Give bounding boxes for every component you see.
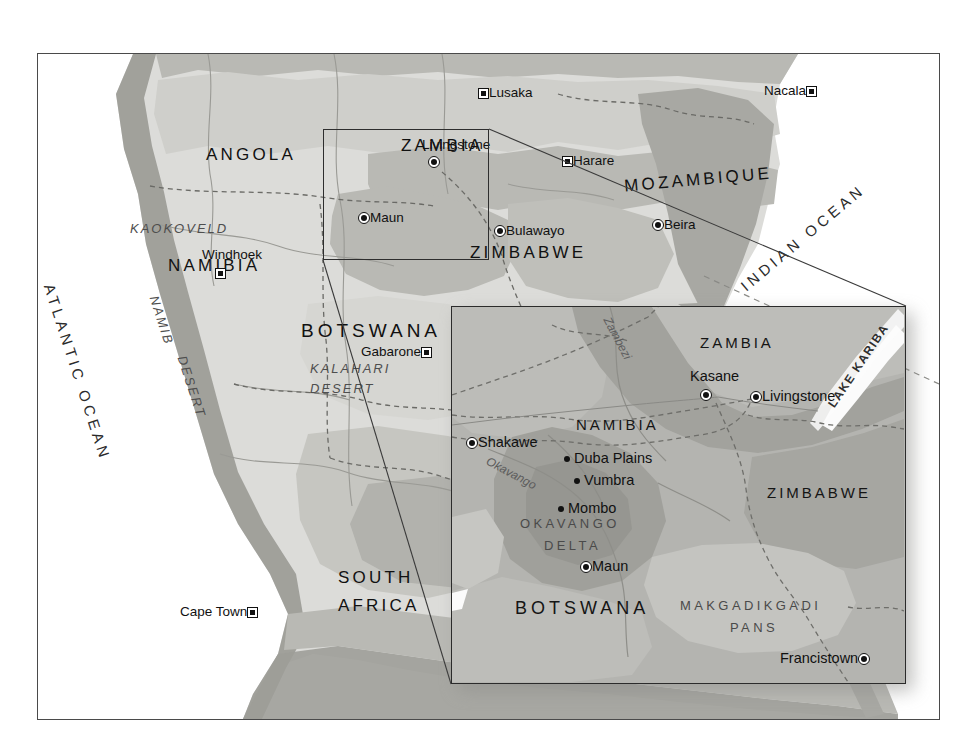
region-label-kalahari-desert: DESERT xyxy=(310,382,375,395)
city-cape-town: Cape Town xyxy=(180,605,258,619)
inset-camp-duba-plains: Duba Plains xyxy=(564,451,652,466)
inset-country-zambia: ZAMBIA xyxy=(700,335,774,350)
region-label-kaokoveld: KAOKOVELD xyxy=(130,222,228,235)
camp-marker-icon xyxy=(574,478,580,484)
camp-marker-icon xyxy=(558,506,564,512)
city-label: Lusaka xyxy=(489,85,533,100)
city-gabarone: Gabarone xyxy=(361,345,432,359)
inset-city-shakawe: Shakawe xyxy=(466,435,538,450)
city-label: Shakawe xyxy=(478,434,538,450)
capital-marker-icon xyxy=(247,607,258,618)
city-label: Maun xyxy=(592,558,628,574)
inset-country-botswana: BOTSWANA xyxy=(515,599,649,617)
inset-camp-vumbra: Vumbra xyxy=(574,473,634,488)
city-marker-icon xyxy=(494,225,506,237)
capital-marker-icon xyxy=(806,86,817,97)
inset-region-pans: PANS xyxy=(730,621,778,634)
inset-detail-box[interactable] xyxy=(323,129,489,260)
capital-marker-icon xyxy=(562,156,573,167)
city-label: Nacala xyxy=(764,83,806,98)
city-label: Beira xyxy=(664,217,696,232)
inset-map-okavango[interactable]: ZAMBIA NAMIBIA ZIMBABWE BOTSWANA OKAVANG… xyxy=(451,306,906,684)
city-marker-kasane-icon xyxy=(700,389,712,401)
map-canvas: ANGOLA ZAMBIA MOZAMBIQUE NAMIBIA ZIMBABW… xyxy=(0,0,973,754)
inset-region-okavango: OKAVANGO xyxy=(520,517,620,530)
city-lusaka: Lusaka xyxy=(478,86,533,100)
country-label-botswana: BOTSWANA xyxy=(301,321,441,340)
city-label: Francistown xyxy=(780,650,858,666)
camp-label: Duba Plains xyxy=(574,450,652,466)
city-bulawayo: Bulawayo xyxy=(494,224,565,238)
city-label: Cape Town xyxy=(180,604,247,619)
city-label: Gabarone xyxy=(361,344,421,359)
camp-marker-icon xyxy=(564,456,570,462)
country-label-south: SOUTH xyxy=(338,569,414,586)
inset-region-delta: DELTA xyxy=(544,539,601,552)
camp-label: Mombo xyxy=(568,500,616,516)
inset-country-namibia: NAMIBIA xyxy=(576,417,659,432)
capital-marker-icon xyxy=(421,347,432,358)
camp-label: Vumbra xyxy=(584,472,634,488)
inset-city-kasane: Kasane xyxy=(690,369,739,384)
city-marker-icon xyxy=(750,391,762,403)
inset-country-zimbabwe: ZIMBABWE xyxy=(767,485,871,500)
inset-city-maun: Maun xyxy=(580,559,628,574)
capital-marker-icon xyxy=(478,88,489,99)
city-label: Livingstone xyxy=(762,388,835,404)
city-marker-icon xyxy=(858,653,870,665)
capital-marker-windhoek-icon xyxy=(215,268,226,279)
city-marker-icon xyxy=(466,437,478,449)
map-frame: ANGOLA ZAMBIA MOZAMBIQUE NAMIBIA ZIMBABW… xyxy=(37,53,940,720)
inset-region-makgadikgadi: MAKGADIKGADI xyxy=(680,599,821,612)
inset-camp-mombo: Mombo xyxy=(558,501,616,516)
city-marker-icon xyxy=(652,219,664,231)
city-marker-icon xyxy=(580,561,592,573)
city-windhoek: Windhoek xyxy=(202,248,262,262)
city-label: Windhoek xyxy=(202,247,262,262)
city-beira: Beira xyxy=(652,218,696,232)
inset-city-francistown: Francistown xyxy=(780,651,870,666)
inset-city-livingstone: Livingstone xyxy=(750,389,835,404)
city-label: Bulawayo xyxy=(506,223,565,238)
city-nacala: Nacala xyxy=(764,84,817,98)
city-harare: Harare xyxy=(562,154,614,168)
region-label-kalahari: KALAHARI xyxy=(310,362,390,375)
city-label: Harare xyxy=(573,153,614,168)
city-label: Kasane xyxy=(690,368,739,384)
country-label-africa: AFRICA xyxy=(338,597,420,614)
country-label-angola: ANGOLA xyxy=(206,146,296,163)
